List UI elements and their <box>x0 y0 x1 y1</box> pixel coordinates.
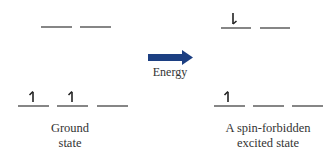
excited-state-label-line2: excited state <box>208 136 328 151</box>
energy-label: Energy <box>140 65 200 80</box>
excited-upper-orbitals <box>221 13 290 28</box>
electron-down-icon <box>233 13 237 24</box>
energy-diagram: Energy Ground state A spin-forbidden exc… <box>0 0 335 161</box>
excited-lower-orbitals <box>214 92 323 107</box>
electron-up-icon <box>30 92 34 103</box>
ground-state-label-line2: state <box>30 136 110 151</box>
ground-lower-orbitals <box>18 92 128 107</box>
electron-up-icon <box>225 92 229 103</box>
electron-up-icon <box>69 92 73 103</box>
excited-state-label-line1: A spin-forbidden <box>208 121 328 136</box>
ground-state-label-line1: Ground <box>30 121 110 136</box>
energy-arrow-icon <box>148 50 193 65</box>
